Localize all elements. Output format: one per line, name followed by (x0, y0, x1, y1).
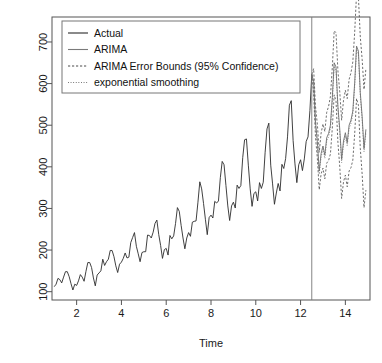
x-axis-tick-label: 8 (208, 307, 214, 319)
legend-label-1: ARIMA (94, 43, 127, 55)
y-axis-tick-label: 500 (37, 116, 49, 134)
chart-legend: ActualARIMAARIMA Error Bounds (95% Confi… (62, 21, 300, 93)
forecast-chart: 100200300400500600700 2468101214 ActualA… (0, 0, 382, 363)
y-axis-tick-label: 300 (37, 199, 49, 217)
legend-label-0: Actual (94, 27, 123, 39)
x-axis-tick-label: 10 (250, 307, 262, 319)
y-axis-tick-label: 600 (37, 74, 49, 92)
x-axis-title: Time (199, 337, 223, 349)
y-axis-tick-label: 400 (37, 158, 49, 176)
x-axis-tick-label: 4 (118, 307, 124, 319)
chart-container: 100200300400500600700 2468101214 ActualA… (0, 0, 382, 363)
x-axis-tick-label: 14 (339, 307, 351, 319)
y-axis-tick-label: 700 (37, 33, 49, 51)
y-axis-tick-label: 100 (37, 282, 49, 300)
legend-label-2: ARIMA Error Bounds (95% Confidence) (94, 60, 278, 72)
y-axis-tick-label: 200 (37, 241, 49, 259)
x-axis-tick-label: 12 (294, 307, 306, 319)
x-axis-tick-label: 6 (163, 307, 169, 319)
legend-label-3: exponential smoothing (94, 76, 199, 88)
x-axis-tick-label: 2 (74, 307, 80, 319)
